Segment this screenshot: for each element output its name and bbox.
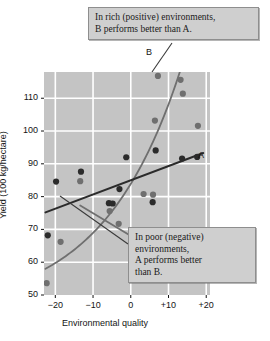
y-tick-60: 60	[14, 256, 38, 266]
callout-rich-line-2: B performs better than A.	[95, 24, 253, 36]
x-tick-plus20: +20	[193, 300, 219, 310]
series-b-label: B	[146, 47, 152, 57]
callout-poor-line-1: In poor (negative)	[135, 232, 250, 244]
callout-poor-line-2: environments,	[135, 244, 250, 256]
chart-figure: 110 100 90 80 70 60 50 −20 −10 0 +10 +20…	[0, 0, 270, 341]
callout-poor-environments: In poor (negative) environments, A perfo…	[128, 227, 256, 283]
chart-canvas	[0, 0, 270, 341]
x-tick-minus20: −20	[42, 300, 68, 310]
y-tick-90: 90	[14, 158, 38, 168]
y-tick-50: 50	[14, 289, 38, 299]
y-tick-110: 110	[14, 92, 38, 102]
y-axis-title: Yield (100 kg/hectare)	[0, 131, 8, 219]
x-tick-zero: 0	[118, 300, 144, 310]
callout-top-leader-line	[152, 43, 172, 72]
callout-rich-environments: In rich (positive) environments, B perfo…	[88, 7, 259, 40]
y-tick-100: 100	[14, 125, 38, 135]
callout-poor-line-4: than B.	[135, 267, 250, 279]
y-tick-70: 70	[14, 223, 38, 233]
callout-poor-line-3: A performs better	[135, 255, 250, 267]
x-axis-title: Environmental quality	[62, 318, 148, 328]
x-tick-minus10: −10	[80, 300, 106, 310]
x-tick-plus10: +10	[156, 300, 182, 310]
series-a-label: A	[198, 150, 204, 160]
y-tick-80: 80	[14, 191, 38, 201]
callout-rich-line-1: In rich (positive) environments,	[95, 12, 253, 24]
